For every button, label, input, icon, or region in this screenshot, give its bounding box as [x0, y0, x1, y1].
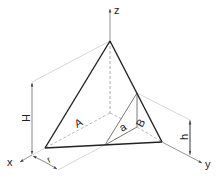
x-axis-label: x	[7, 156, 13, 168]
edge-a-label: a	[117, 120, 129, 134]
z-axis-label: z	[114, 4, 120, 16]
construction-lines	[32, 41, 190, 170]
inner-section	[105, 93, 137, 145]
tetrahedron-diagram: z x y H h A B a r	[0, 0, 224, 180]
offset-r-label: r	[45, 155, 53, 165]
diagram-canvas: z x y H h A B a r	[0, 0, 224, 180]
face-B-label: B	[133, 117, 147, 129]
tetrahedron-outline	[45, 41, 162, 148]
height-H-label: H	[20, 114, 32, 122]
height-h-label: h	[178, 134, 190, 140]
y-axis-label: y	[205, 158, 211, 170]
